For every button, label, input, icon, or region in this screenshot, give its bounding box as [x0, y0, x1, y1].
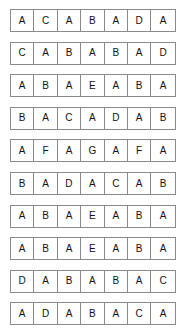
letter-cell: A [151, 140, 174, 161]
letter-cell: E [81, 75, 104, 96]
letter-row: ABAEABA [10, 205, 176, 228]
letter-cell: G [81, 140, 104, 161]
letter-row: CABABAD [10, 42, 176, 65]
letter-cell: A [151, 75, 174, 96]
letter-cell: B [58, 43, 81, 64]
letter-cell: A [151, 303, 174, 324]
letter-cell: B [11, 173, 34, 194]
letter-cell: A [11, 206, 34, 227]
letter-cell: A [34, 43, 57, 64]
letter-row: BACADAB [10, 107, 176, 130]
letter-row: ABAEABA [10, 74, 176, 97]
letter-cell: D [58, 173, 81, 194]
letter-cell: A [34, 108, 57, 129]
letter-cell: A [58, 238, 81, 259]
letter-row: DABABAC [10, 270, 176, 293]
letter-cell: C [58, 108, 81, 129]
letter-cell: A [105, 206, 128, 227]
letter-cell: D [11, 271, 34, 292]
letter-cell: A [11, 140, 34, 161]
letter-cell: C [34, 10, 57, 31]
letter-cell: B [81, 10, 104, 31]
letter-row: BADACAB [10, 172, 176, 195]
letter-cell: B [128, 238, 151, 259]
letter-cell: A [128, 271, 151, 292]
letter-cell: A [105, 238, 128, 259]
letter-cell: B [128, 75, 151, 96]
letter-cell: A [58, 303, 81, 324]
letter-cell: B [81, 303, 104, 324]
letter-cell: F [34, 140, 57, 161]
letter-row: ABAEABA [10, 237, 176, 260]
letter-cell: A [81, 271, 104, 292]
letter-row: ACABADA [10, 9, 176, 32]
letter-cell: B [128, 206, 151, 227]
letter-cell: B [105, 43, 128, 64]
letter-grid-sheet: ACABADACABABADABAEABABACADABAFAGAFABADAC… [0, 0, 186, 336]
letter-cell: D [128, 10, 151, 31]
letter-cell: C [128, 303, 151, 324]
letter-cell: A [105, 303, 128, 324]
letter-cell: A [81, 108, 104, 129]
letter-cell: A [34, 271, 57, 292]
letter-cell: B [151, 173, 174, 194]
letter-cell: F [128, 140, 151, 161]
letter-cell: A [151, 238, 174, 259]
letter-cell: B [34, 75, 57, 96]
letter-cell: A [58, 206, 81, 227]
letter-cell: A [151, 10, 174, 31]
letter-cell: A [11, 303, 34, 324]
letter-cell: D [105, 108, 128, 129]
letter-cell: A [81, 173, 104, 194]
letter-cell: A [105, 75, 128, 96]
letter-cell: B [151, 108, 174, 129]
letter-cell: A [128, 43, 151, 64]
letter-cell: D [34, 303, 57, 324]
letter-cell: A [151, 206, 174, 227]
letter-cell: A [34, 173, 57, 194]
letter-cell: A [81, 43, 104, 64]
letter-cell: C [11, 43, 34, 64]
letter-row: AFAGAFA [10, 139, 176, 162]
letter-cell: A [105, 140, 128, 161]
letter-cell: B [11, 108, 34, 129]
letter-cell: A [58, 10, 81, 31]
letter-cell: D [151, 43, 174, 64]
letter-cell: B [58, 271, 81, 292]
letter-cell: A [128, 108, 151, 129]
letter-cell: B [34, 238, 57, 259]
letter-cell: A [11, 238, 34, 259]
letter-cell: E [81, 238, 104, 259]
letter-cell: B [34, 206, 57, 227]
letter-cell: A [105, 10, 128, 31]
letter-row: ADABACA [10, 302, 176, 325]
letter-cell: A [11, 75, 34, 96]
letter-cell: A [58, 140, 81, 161]
letter-cell: B [105, 271, 128, 292]
letter-cell: A [58, 75, 81, 96]
letter-cell: A [128, 173, 151, 194]
letter-cell: E [81, 206, 104, 227]
letter-cell: C [151, 271, 174, 292]
letter-cell: C [105, 173, 128, 194]
letter-cell: A [11, 10, 34, 31]
